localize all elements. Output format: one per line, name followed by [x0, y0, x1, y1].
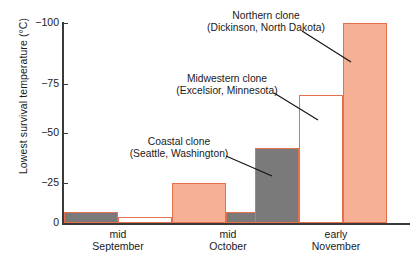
leader-line-northern	[302, 31, 351, 62]
leader-line-coastal	[226, 156, 272, 176]
leader-line-midwestern	[274, 93, 318, 120]
chart-figure: Lowest survival temperature (°C) −100 −7…	[0, 0, 414, 265]
annotation-leader-lines	[0, 0, 414, 265]
